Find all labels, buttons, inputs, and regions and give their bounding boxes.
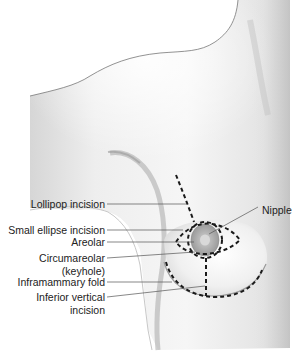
breast-incision-diagram: Lollipop incision Small ellipse incision… xyxy=(0,0,298,358)
label-circumareolar: Circumareolar xyxy=(39,252,105,264)
nipple xyxy=(200,235,210,246)
anatomical-illustration xyxy=(0,0,298,358)
label-areolar: Areolar xyxy=(71,236,105,248)
label-lollipop-incision: Lollipop incision xyxy=(31,198,105,210)
label-incision: incision xyxy=(70,304,105,316)
label-nipple: Nipple xyxy=(262,204,292,216)
label-small-ellipse-incision: Small ellipse incision xyxy=(8,224,105,236)
label-inframammary-fold: Inframammary fold xyxy=(17,276,105,288)
label-inferior-vertical: Inferior vertical xyxy=(36,291,105,303)
